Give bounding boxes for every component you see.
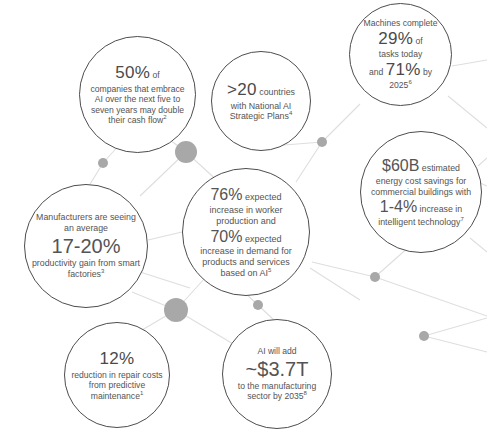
- stat-value: 17-20%: [52, 235, 121, 257]
- stat-node-energy-savings[interactable]: $60B estimated energy cost savings for c…: [360, 131, 482, 253]
- stat-lead: Machines complete: [363, 18, 437, 28]
- stat-body: reduction in repair costs from predictiv…: [71, 370, 162, 401]
- stat-value: $60B: [382, 157, 419, 174]
- footnote-marker: 1: [140, 390, 143, 396]
- stat-value: 50%: [115, 63, 150, 82]
- stat-node-countries[interactable]: >20 countries with National AI Strategic…: [211, 51, 311, 151]
- stat-value: 12%: [100, 349, 135, 368]
- stat-suffix: of: [150, 70, 160, 80]
- dot-small-bottom-mid: [253, 300, 263, 310]
- stat-lead: AI will add: [257, 346, 296, 356]
- stat-body-2: intelligent technology: [378, 217, 460, 227]
- stat-suffix: countries: [257, 87, 295, 97]
- stat-suffix-2: increase in: [417, 204, 462, 214]
- stat-value: >20: [227, 80, 257, 99]
- stat-value: 76%: [210, 186, 242, 203]
- footnote-marker: 2: [163, 114, 166, 120]
- stat-conjunction: and: [369, 67, 386, 77]
- stat-body-1: energy cost savings for commercial build…: [371, 176, 471, 197]
- stat-value: ~$3.7T: [246, 358, 309, 380]
- dot-small-right-lower: [370, 272, 380, 282]
- dot-small-right-upper: [317, 137, 327, 147]
- dot-small-left: [98, 158, 108, 168]
- stat-node-workforce[interactable]: 76% expected increase in worker producti…: [182, 168, 310, 296]
- stat-value-2: 1-4%: [380, 198, 417, 215]
- stat-body: productivity gain from smart factories: [32, 258, 140, 279]
- stat-year: 2025: [389, 80, 408, 90]
- stat-suffix: expected: [243, 192, 282, 202]
- footnote-marker: 5: [268, 267, 271, 273]
- dot-large-lower-mid: [164, 298, 188, 322]
- dot-large-upper-mid: [175, 141, 197, 163]
- infographic-canvas: THE AI STORY: WHAT THE DATA SAYS: [0, 0, 487, 435]
- stat-body: companies that embrace AI over the next …: [90, 84, 184, 125]
- dot-small-far-right: [419, 331, 429, 341]
- footnote-marker: 7: [460, 216, 463, 222]
- stat-value-2: 71%: [386, 60, 421, 79]
- footnote-marker: 3: [101, 268, 104, 274]
- footnote-marker: 4: [289, 110, 292, 116]
- stat-value: 29%: [378, 29, 413, 48]
- stat-suffix-2: by: [421, 67, 432, 77]
- stat-mid: tasks today: [379, 49, 422, 59]
- footnote-marker: 8: [304, 391, 307, 397]
- stat-node-manufacturers[interactable]: Manufacturers are seeing an average 17-2…: [24, 184, 148, 308]
- stat-body-2: increase in demand for products and serv…: [200, 246, 292, 278]
- stat-node-cash-flow[interactable]: 50% of companies that embrace AI over th…: [79, 36, 196, 153]
- footnote-marker: 6: [408, 80, 411, 86]
- stat-node-machines[interactable]: Machines complete 29% of tasks today and…: [349, 3, 452, 106]
- stat-suffix: estimated: [419, 163, 460, 173]
- stat-node-gdp-contribution[interactable]: AI will add ~$3.7T to the manufacturing …: [222, 319, 332, 429]
- stat-body-1: increase in worker production and: [209, 205, 282, 226]
- stat-suffix: of: [413, 36, 423, 46]
- stat-value-2: 70%: [210, 228, 242, 245]
- stat-suffix-2: expected: [243, 234, 282, 244]
- stat-node-repair-costs[interactable]: 12% reduction in repair costs from predi…: [64, 322, 170, 428]
- stat-body: with National AI Strategic Plans: [230, 101, 292, 122]
- stat-lead: Manufacturers are seeing an average: [36, 212, 136, 233]
